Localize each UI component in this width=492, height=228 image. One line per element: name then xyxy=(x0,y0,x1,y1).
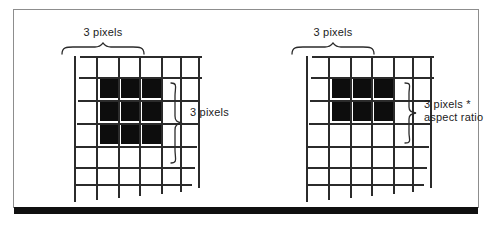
vertical-brace-right xyxy=(404,82,417,144)
top-width-label-right: 3 pixels xyxy=(273,26,393,39)
grid-line-h xyxy=(312,56,434,58)
filled-pixel-cell xyxy=(121,123,140,144)
grid-line-h xyxy=(308,146,429,148)
filled-pixel-cell xyxy=(374,100,393,121)
grid-line-h xyxy=(74,184,192,186)
filled-pixel-cell xyxy=(100,100,119,121)
side-height-label-right: 3 pixels *aspect ratio xyxy=(424,98,483,124)
horizontal-brace-right xyxy=(291,43,375,55)
grid-line-v xyxy=(139,56,141,196)
grid-line-v xyxy=(96,56,98,200)
vertical-brace-left xyxy=(170,82,183,164)
side-label-line-2: aspect ratio xyxy=(424,111,483,123)
grid-line-h xyxy=(75,167,195,169)
filled-pixel-cell xyxy=(374,77,393,98)
horizontal-brace-left xyxy=(61,43,145,55)
grid-line-v xyxy=(328,56,330,200)
bottom-rule xyxy=(14,207,478,214)
aspect-ratio-pixel-panel: 3 pixels xyxy=(246,10,492,209)
pixel-grid-left xyxy=(80,56,202,184)
grid-line-v xyxy=(371,56,373,196)
grid-line-h xyxy=(80,56,202,58)
filled-pixel-cell xyxy=(353,77,372,98)
grid-line-v xyxy=(306,56,308,202)
square-pixel-panel: 3 pixels xyxy=(14,10,260,209)
grid-line-h xyxy=(306,184,424,186)
filled-pixel-cell xyxy=(100,77,119,98)
side-label-line-1: 3 pixels * xyxy=(424,98,471,110)
grid-line-v xyxy=(393,56,395,194)
grid-line-v xyxy=(350,56,352,198)
grid-line-v xyxy=(161,56,163,194)
grid-line-v xyxy=(118,56,120,198)
grid-line-v xyxy=(198,56,200,188)
figure-frame: 3 pixels xyxy=(13,9,479,208)
top-width-label-left: 3 pixels xyxy=(43,26,163,39)
filled-pixel-cell xyxy=(142,123,161,144)
filled-pixel-cell xyxy=(353,100,372,121)
filled-pixel-cell xyxy=(121,100,140,121)
filled-pixel-cell xyxy=(332,77,351,98)
filled-pixel-cell xyxy=(142,100,161,121)
filled-pixel-cell xyxy=(142,77,161,98)
grid-line-v xyxy=(74,56,76,202)
filled-pixel-cell xyxy=(121,77,140,98)
grid-line-h xyxy=(307,167,427,169)
filled-pixel-cell xyxy=(100,123,119,144)
filled-pixel-cell xyxy=(332,100,351,121)
side-height-label-left: 3 pixels xyxy=(190,106,229,119)
